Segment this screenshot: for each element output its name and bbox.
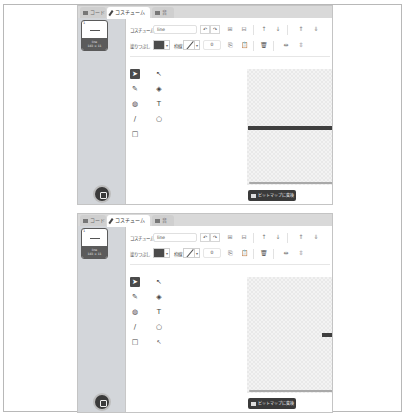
costume-thumbnail (90, 30, 100, 31)
divider (253, 249, 254, 259)
group-button[interactable]: ⊞ (225, 25, 235, 33)
brush-icon (108, 10, 113, 16)
forward-button[interactable]: ↑ (259, 25, 269, 33)
convert-to-bitmap-button[interactable]: ビットマップに変換 (248, 398, 296, 409)
drawing-canvas[interactable] (247, 277, 333, 393)
convert-to-bitmap-button[interactable]: ビットマップに変換 (248, 190, 296, 201)
outline-color-swatch[interactable] (183, 248, 195, 258)
costume-card[interactable]: 1 line 183 × 11 (81, 228, 108, 259)
sound-icon (155, 11, 160, 15)
redo-button[interactable]: ↷ (210, 233, 220, 242)
front-button[interactable]: ⇑ (296, 233, 306, 241)
outline-size-input[interactable]: 0 (203, 40, 221, 50)
backward-button[interactable]: ↓ (273, 25, 283, 33)
line-shape[interactable] (322, 333, 333, 337)
line-shape[interactable] (248, 126, 333, 130)
flip-horizontal-button[interactable]: ⇹ (281, 249, 291, 257)
delete-button[interactable]: 🗑 (259, 249, 269, 257)
costume-size: 183 × 11 (82, 44, 107, 48)
flip-vertical-button[interactable]: ⇳ (296, 249, 306, 257)
circle-tool[interactable]: ○ (154, 322, 164, 332)
fill-label: 塗りつぶし (130, 251, 150, 257)
drawing-canvas[interactable] (247, 69, 333, 185)
eraser-tool[interactable]: ◈ (154, 84, 164, 94)
front-button[interactable]: ⇑ (296, 25, 306, 33)
outline-color-swatch[interactable] (183, 40, 195, 50)
divider (287, 25, 288, 35)
group-button[interactable]: ⊞ (225, 233, 235, 241)
toolbar-divider (130, 56, 330, 57)
code-icon (83, 11, 88, 15)
code-icon (83, 219, 88, 223)
brush-icon (108, 218, 113, 224)
costume-number: 1 (83, 229, 85, 233)
text-tool[interactable]: T (154, 307, 164, 317)
costume-name-input[interactable]: line (153, 25, 197, 34)
ungroup-button[interactable]: ⊟ (239, 25, 249, 33)
horizontal-scrollbar[interactable] (249, 390, 333, 392)
brush-tool[interactable]: ✎ (130, 84, 140, 94)
tab-bar: コード コスチューム 音 (78, 6, 332, 18)
pointer-tool[interactable]: ↖ (154, 337, 164, 347)
image-icon (251, 402, 256, 406)
flip-horizontal-button[interactable]: ⇹ (281, 41, 291, 49)
fill-tool[interactable]: ◍ (130, 307, 140, 317)
delete-button[interactable]: 🗑 (259, 41, 269, 49)
rectangle-tool[interactable]: □ (130, 337, 140, 347)
toolbar-divider (130, 264, 330, 265)
costume-name-label: コスチューム (130, 235, 154, 241)
backward-button[interactable]: ↓ (273, 233, 283, 241)
fill-label: 塗りつぶし (130, 43, 150, 49)
costume-card[interactable]: 1 line 183 × 11 (81, 20, 108, 51)
outline-size-input[interactable]: 0 (203, 248, 221, 258)
undo-button[interactable]: ↶ (200, 233, 210, 242)
costume-editor-panel-2: コード コスチューム 音 1 line 183 × 11 コスチューム line… (77, 213, 333, 413)
back-button[interactable]: ⇓ (311, 233, 321, 241)
copy-button[interactable]: ⎘ (225, 41, 235, 49)
rectangle-tool[interactable]: □ (130, 129, 140, 139)
tab-costumes[interactable]: コスチューム (107, 7, 150, 19)
select-tool[interactable]: ➤ (130, 69, 140, 79)
paste-button[interactable]: 📋 (239, 41, 249, 49)
reshape-tool[interactable]: ↖ (154, 277, 164, 287)
outline-dropdown[interactable]: ▾ (195, 248, 200, 258)
divider (253, 41, 254, 51)
costume-name-input[interactable]: line (153, 233, 197, 242)
costume-list: 1 line 183 × 11 (78, 18, 126, 205)
costume-number: 1 (83, 21, 85, 25)
paste-button[interactable]: 📋 (239, 249, 249, 257)
forward-button[interactable]: ↑ (259, 233, 269, 241)
costume-name-label: コスチューム (130, 27, 154, 33)
copy-button[interactable]: ⎘ (225, 249, 235, 257)
outline-dropdown[interactable]: ▾ (195, 40, 200, 50)
line-tool[interactable]: / (130, 114, 140, 124)
horizontal-scrollbar[interactable] (249, 182, 333, 184)
flip-vertical-button[interactable]: ⇳ (296, 41, 306, 49)
circle-tool[interactable]: ○ (154, 114, 164, 124)
reshape-tool[interactable]: ↖ (154, 69, 164, 79)
undo-button[interactable]: ↶ (200, 25, 210, 34)
select-tool[interactable]: ➤ (130, 277, 140, 287)
tab-costumes[interactable]: コスチューム (107, 215, 150, 227)
outline-label: 枠線 (174, 251, 182, 257)
paint-editor: コスチューム line ↶ ↷ ⊞ ⊟ ↑ ↓ ⇑ ⇓ 塗りつぶし ▾ 枠線 ▾… (126, 226, 333, 413)
ungroup-button[interactable]: ⊟ (239, 233, 249, 241)
redo-button[interactable]: ↷ (210, 25, 220, 34)
fill-color-swatch[interactable] (153, 40, 165, 50)
back-button[interactable]: ⇓ (311, 25, 321, 33)
costume-list: 1 line 183 × 11 (78, 226, 126, 413)
eraser-tool[interactable]: ◈ (154, 292, 164, 302)
brush-tool[interactable]: ✎ (130, 292, 140, 302)
outline-label: 枠線 (174, 43, 182, 49)
fill-color-swatch[interactable] (153, 248, 165, 258)
paint-editor: コスチューム line ↶ ↷ ⊞ ⊟ ↑ ↓ ⇑ ⇓ 塗りつぶし ▾ 枠線 ▾… (126, 18, 333, 205)
tab-bar: コード コスチューム 音 (78, 214, 332, 226)
fill-dropdown[interactable]: ▾ (165, 248, 170, 258)
choose-costume-button[interactable] (95, 187, 109, 201)
line-tool[interactable]: / (130, 322, 140, 332)
fill-dropdown[interactable]: ▾ (165, 40, 170, 50)
choose-costume-button[interactable] (95, 395, 109, 409)
text-tool[interactable]: T (154, 99, 164, 109)
divider (287, 233, 288, 243)
fill-tool[interactable]: ◍ (130, 99, 140, 109)
